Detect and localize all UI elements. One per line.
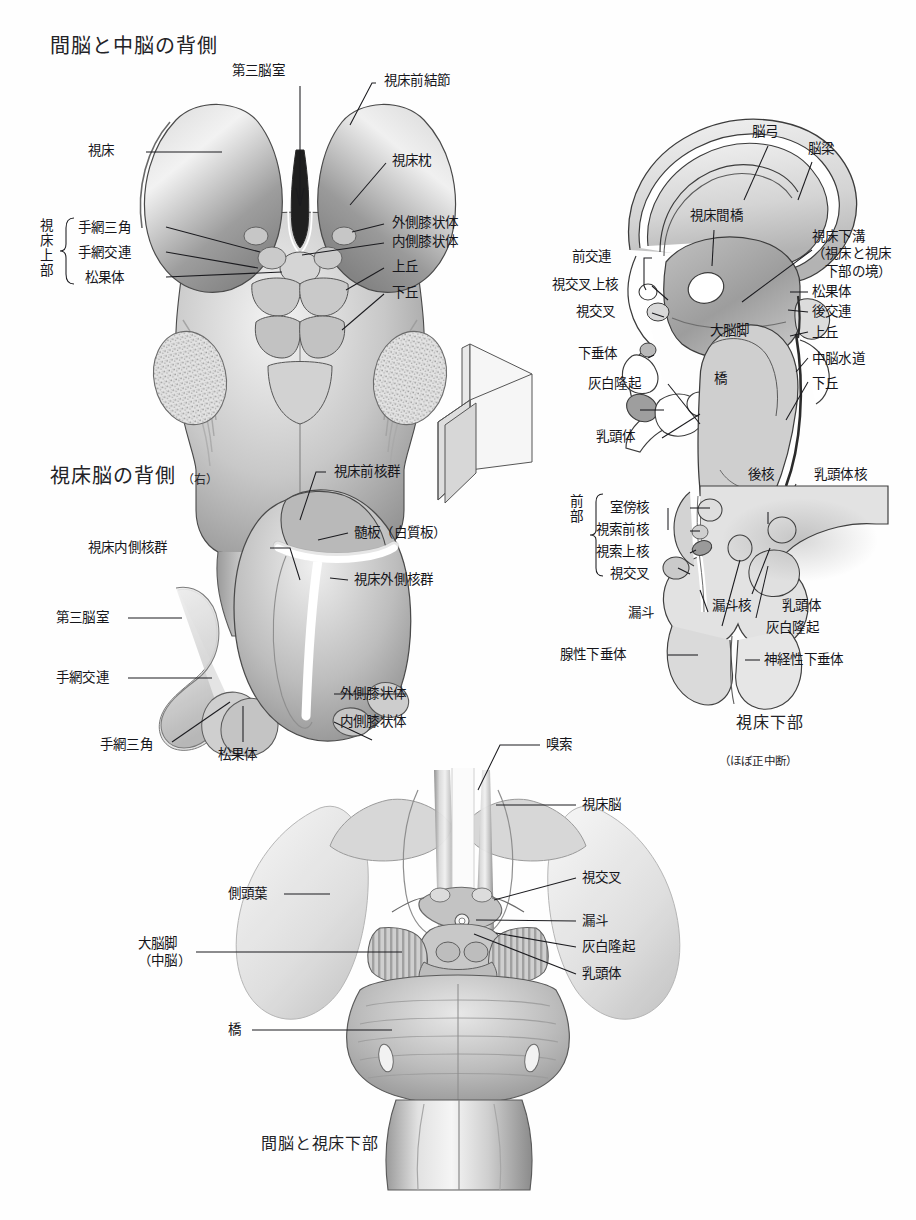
label-cerebral-peduncle-p2: 大脳脚 — [710, 322, 750, 339]
label-optic-chiasm-p5: 視交叉 — [582, 869, 622, 886]
label-mammillary-body-p4: 乳頭体 — [782, 597, 822, 614]
label-paraventricular-nucleus: 室傍核 — [610, 499, 650, 516]
label-cerebral-peduncle-p5: 大脳脚 （中脳） — [138, 935, 191, 970]
caption-main: 視床下部 — [736, 713, 803, 732]
label-thalamencephalon: 視床脳 — [582, 796, 622, 813]
panel-caption-hypothalamus: 視床下部 （ほぼ正中断） — [668, 690, 848, 806]
label-adenohypophysis: 腺性下垂体 — [560, 646, 626, 663]
label-posterior-nucleus: 後核 — [748, 466, 774, 483]
label-pons-p5: 橋 — [228, 1021, 241, 1038]
label-suprachiasmatic-nucleus: 視交叉上核 — [552, 276, 618, 293]
label-temporal-lobe: 側頭葉 — [228, 885, 268, 902]
label-neurohypophysis: 神経性下垂体 — [764, 651, 843, 668]
label-optic-chiasm-p4: 視交叉 — [610, 565, 650, 582]
label-inferior-colliculus-p2: 下丘 — [812, 375, 838, 392]
label-medial-geniculate-body-p3: 内側膝状体 — [340, 713, 406, 730]
label-anterior-thalamic-nuclei: 視床前核群 — [334, 463, 400, 480]
label-optic-chiasm-p2: 視交叉 — [576, 303, 616, 320]
label-superior-colliculus-p2: 上丘 — [812, 324, 838, 341]
panel-title-dorsal-thalamus-suffix: （右） — [182, 470, 218, 487]
label-habenular-commissure-p1: 手網交連 — [78, 244, 131, 261]
label-mammillary-body-p2: 乳頭体 — [596, 428, 636, 445]
figure-page: 間脳と中脳の背側 第三脳室 視床前結節 視床 視床枕 外側膝状体 内側膝状体 上… — [0, 0, 916, 1220]
label-infundibulum-p5: 漏斗 — [582, 912, 608, 929]
label-posterior-commissure: 後交連 — [812, 303, 852, 320]
label-fornix: 脳弓 — [752, 123, 778, 140]
label-anterior-region-bracket: 前部 — [568, 494, 583, 524]
section-plane-indicator-art — [438, 344, 532, 503]
panel-title-dorsal: 間脳と中脳の背側 — [50, 30, 218, 59]
label-tuber-cinereum-p5: 灰白隆起 — [582, 938, 635, 955]
label-hypophysis: 下垂体 — [578, 345, 618, 362]
label-hypothalamic-sulcus: 視床下溝 （視床と視床 下部の境） — [812, 228, 891, 280]
label-tuber-cinereum-p4: 灰白隆起 — [766, 619, 819, 636]
label-medullary-lamina: 髄板（白質板） — [354, 524, 446, 541]
label-superior-colliculus-p1: 上丘 — [392, 258, 418, 275]
label-third-ventricle-p3: 第三脳室 — [56, 609, 109, 626]
label-mammillary-nucleus: 乳頭体核 — [814, 466, 867, 483]
label-pons-p2: 橋 — [714, 370, 727, 387]
label-pineal-body-p2: 松果体 — [812, 283, 852, 300]
label-third-ventricle-p1: 第三脳室 — [232, 62, 285, 79]
label-anterior-commissure: 前交連 — [572, 248, 612, 265]
label-medial-thalamic-nuclei: 視床内側核群 — [88, 539, 167, 556]
label-habenular-commissure-p3: 手網交連 — [56, 669, 109, 686]
label-infundibular-nucleus: 漏斗核 — [712, 597, 752, 614]
caption-sub: （ほぼ正中断） — [668, 752, 848, 768]
label-tuber-cinereum-p2: 灰白隆起 — [588, 375, 641, 392]
label-lateral-thalamic-nuclei: 視床外側核群 — [354, 571, 433, 588]
label-lateral-geniculate-body-p3: 外側膝状体 — [340, 685, 406, 702]
anatomical-artwork — [0, 0, 916, 1220]
label-habenular-trigone-p3: 手網三角 — [100, 736, 153, 753]
label-epithalamus-bracket: 視床上部 — [38, 218, 53, 278]
label-inferior-colliculus-p1: 下丘 — [392, 284, 418, 301]
label-infundibulum-p4: 漏斗 — [628, 604, 654, 621]
label-preoptic-nucleus: 視索前核 — [596, 521, 649, 538]
panel-caption-ventral: 間脳と視床下部 — [200, 1130, 440, 1154]
label-olfactory-tract: 嗅索 — [546, 736, 572, 753]
label-cerebral-aqueduct: 中脳水道 — [812, 350, 865, 367]
label-thalamus: 視床 — [88, 142, 114, 159]
label-corpus-callosum: 脳梁 — [808, 140, 834, 157]
panel-hypothalamus-art — [663, 486, 888, 709]
label-interthalamic-adhesion: 視床間橋 — [690, 207, 743, 224]
label-habenular-trigone-p1: 手網三角 — [78, 219, 131, 236]
label-mammillary-body-p5: 乳頭体 — [582, 965, 622, 982]
label-pulvinar: 視床枕 — [392, 152, 432, 169]
label-lateral-geniculate-body-p1: 外側膝状体 — [392, 214, 458, 231]
label-pineal-body-p1: 松果体 — [85, 269, 125, 286]
label-pineal-body-p3: 松果体 — [218, 746, 258, 763]
label-supraoptic-nucleus: 視索上核 — [596, 543, 649, 560]
label-medial-geniculate-body-p1: 内側膝状体 — [392, 233, 458, 250]
label-anterior-thalamic-tubercle: 視床前結節 — [384, 72, 450, 89]
panel-title-dorsal-thalamus: 視床脳の背側 — [50, 460, 176, 489]
